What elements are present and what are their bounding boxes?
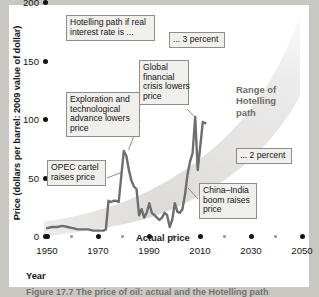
x-tick-marker-2050 (300, 234, 305, 239)
hotelling-path-note: Hotelling path if real interest rate is … (66, 15, 155, 41)
global-financial-crisis-note: Global financial crisis lowers price (139, 60, 189, 105)
x-tick-marker-1950 (45, 234, 50, 239)
y-tick-0: 0 (7, 231, 39, 242)
exploration-technology-note-line-4: price (70, 124, 136, 134)
actual-price-label: Actual price (136, 232, 190, 243)
y-tick-150-text: 150 (23, 56, 39, 67)
three-percent-note: ... 3 percent (169, 32, 225, 48)
two-percent-note: ... 2 percent (236, 148, 292, 164)
y-tick-50-text: 50 (28, 173, 39, 184)
opec-cartel-note-line-2: raises price (51, 173, 102, 183)
x-axis-label: Year (26, 271, 46, 281)
x-tick-marker-2010 (198, 234, 203, 239)
y-tick-100-text: 100 (23, 114, 39, 125)
range-of-hotelling-path-label: Range of Hotelling path (236, 84, 276, 118)
x-tick-marker-2020 (223, 235, 226, 238)
two-percent-note-line-1: ... 2 percent (240, 151, 288, 161)
y-tick-100: 100 (7, 114, 39, 125)
y-tick-200-marker (43, 0, 48, 5)
y-tick-200-text: 200 (23, 0, 39, 8)
three-percent-note-line-1: ... 3 percent (173, 35, 221, 45)
x-tick-marker-1970 (96, 234, 101, 239)
x-tick-1950: 1950 (30, 245, 64, 256)
x-tick-marker-1980 (121, 235, 124, 238)
china-india-note-line-3: price (203, 205, 253, 215)
range-label-line-3: path (236, 107, 276, 118)
x-tick-marker-1960 (70, 235, 73, 238)
y-tick-50: 50 (7, 173, 39, 184)
exploration-technology-note: Exploration and technological advance lo… (66, 92, 140, 137)
opec-cartel-note: OPEC cartel raises price (47, 160, 106, 186)
figure-caption: Figure 17.7 The price of oil: actual and… (26, 287, 269, 297)
x-tick-2010: 2010 (183, 245, 217, 256)
x-tick-1990: 1990 (132, 245, 166, 256)
y-tick-150: 150 (7, 56, 39, 67)
x-tick-marker-2040 (274, 235, 277, 238)
y-tick-0-text: 0 (34, 231, 39, 242)
y-tick-200: 200 (7, 0, 39, 8)
x-tick-2030: 2030 (234, 245, 268, 256)
hotelling-path-note-line-2: interest rate is ... (70, 28, 151, 38)
global-financial-crisis-note-line-4: price (143, 92, 185, 102)
y-tick-100-marker (43, 117, 48, 122)
china-india-note: China–India boom raises price (199, 183, 257, 219)
y-tick-150-marker (43, 59, 48, 64)
x-tick-1970: 1970 (81, 245, 115, 256)
x-tick-marker-2030 (249, 234, 254, 239)
range-label-line-1: Range of (236, 84, 276, 95)
x-tick-2050: 2050 (285, 245, 319, 256)
range-label-line-2: Hotelling (236, 95, 276, 106)
